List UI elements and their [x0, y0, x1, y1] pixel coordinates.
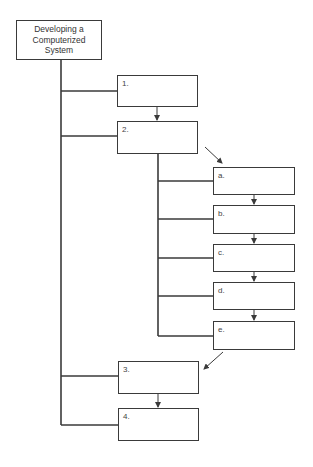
root-title-line-1: Developing a [17, 24, 101, 35]
root-box: Developing a Computerized System [16, 20, 102, 60]
substep-box-c: c. [213, 244, 295, 272]
substep-label: d. [218, 286, 225, 295]
root-title-line-3: System [17, 45, 101, 56]
substep-box-b: b. [213, 205, 295, 234]
substep-label: e. [218, 325, 225, 334]
substep-box-d: d. [213, 282, 295, 310]
substep-label: c. [218, 248, 224, 257]
root-title-line-2: Computerized [17, 35, 101, 46]
step-box-2: 2. [117, 121, 198, 154]
step-label: 4. [123, 412, 130, 421]
step-label: 1. [122, 79, 129, 88]
substep-label: b. [218, 209, 225, 218]
substep-label: a. [218, 171, 225, 180]
step-box-1: 1. [117, 75, 198, 107]
step-label: 3. [123, 365, 130, 374]
substep-box-e: e. [213, 321, 295, 350]
step-label: 2. [122, 125, 129, 134]
step-box-4: 4. [118, 408, 199, 441]
step-box-3: 3. [118, 361, 199, 394]
substep-box-a: a. [213, 167, 295, 195]
